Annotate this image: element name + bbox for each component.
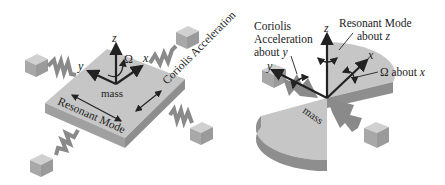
gyroscope-diagrams: z y x Ω mass Resonant Mode Coriolis Acce…: [0, 0, 445, 185]
left-z-label: z: [111, 31, 117, 45]
left-omega-label: Ω: [124, 52, 133, 66]
coriolis-about-y-line2: Acceleration: [254, 33, 313, 45]
right-z-label: z: [323, 21, 329, 35]
right-gyroscope: z y x mass Coriolis Acceleration about y…: [254, 17, 426, 171]
right-y-label: y: [266, 59, 273, 73]
spring-lower-left: [56, 130, 78, 155]
anchor-right: [364, 122, 389, 148]
anchor-upper-left: [25, 54, 48, 77]
right-x-label: x: [367, 48, 374, 62]
omega-about-x-label: Ω about x: [380, 66, 426, 78]
left-x-label: x: [142, 51, 149, 65]
coriolis-acceleration-label: Coriolis Acceleration: [160, 8, 238, 86]
left-mass-label: mass: [101, 87, 123, 99]
spring-right: [327, 98, 362, 132]
anchor-lower-left: [30, 154, 53, 177]
coriolis-about-y-line3: about y: [254, 46, 288, 59]
coriolis-about-y-line1: Coriolis: [254, 20, 292, 32]
left-gyroscope: z y x Ω mass Resonant Mode Coriolis Acce…: [25, 8, 238, 177]
spring-lower-right: [170, 109, 192, 123]
spring-upper-right: [150, 46, 176, 64]
resonant-about-z-line1: Resonant Mode: [339, 17, 412, 29]
resonant-about-z-line2: about z: [357, 30, 390, 42]
spring-upper-left: [48, 60, 76, 75]
left-y-label: y: [77, 59, 84, 73]
coriolis-leader-line: [291, 56, 297, 74]
anchor-lower-right: [190, 122, 213, 145]
